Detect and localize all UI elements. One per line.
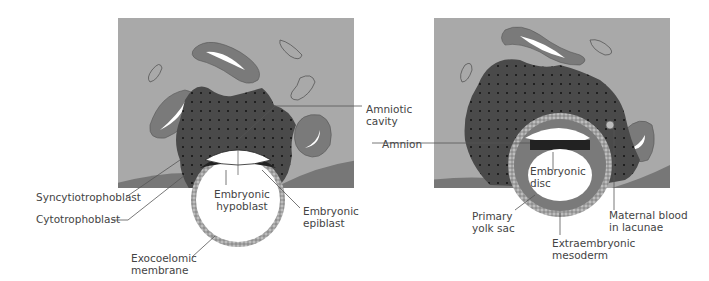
label-amnion: Amnion: [382, 138, 422, 150]
label-exocoelomic-membrane: Exocoelomic membrane: [131, 252, 197, 276]
label-line-2: hypoblast: [214, 200, 270, 212]
label-primary-yolk-sac: Primary yolk sac: [472, 210, 515, 234]
label-embryonic-hypoblast: Embryonic hypoblast: [214, 188, 270, 212]
label-extraembryonic-mesoderm: Extraembryonic mesoderm: [552, 237, 635, 261]
label-syncytiotrophoblast: Syncytiotrophoblast: [36, 191, 141, 203]
label-line-2: membrane: [131, 264, 197, 276]
label-line-2: cavity: [366, 115, 412, 127]
label-line-1: Amniotic: [366, 103, 412, 115]
label-line-2: in lacunae: [609, 221, 688, 233]
label-amniotic-cavity: Amniotic cavity: [366, 103, 412, 127]
label-line-1: Exocoelomic: [131, 252, 197, 264]
label-cytotrophoblast: Cytotrophoblast: [36, 213, 120, 225]
label-line-1: Embryonic: [214, 188, 270, 200]
label-embryonic-epiblast: Embryonic epiblast: [303, 205, 359, 229]
label-line-1: Extraembryonic: [552, 237, 635, 249]
label-maternal-blood: Maternal blood in lacunae: [609, 209, 688, 233]
label-line-2: mesoderm: [552, 249, 635, 261]
label-line-1: Embryonic: [530, 165, 586, 177]
label-embryonic-disc: Embryonic disc: [530, 165, 586, 189]
label-line-1: Maternal blood: [609, 209, 688, 221]
label-line-2: yolk sac: [472, 222, 515, 234]
label-line-1: Primary: [472, 210, 515, 222]
label-line-2: epiblast: [303, 217, 359, 229]
label-line-1: Embryonic: [303, 205, 359, 217]
label-line-2: disc: [530, 177, 586, 189]
